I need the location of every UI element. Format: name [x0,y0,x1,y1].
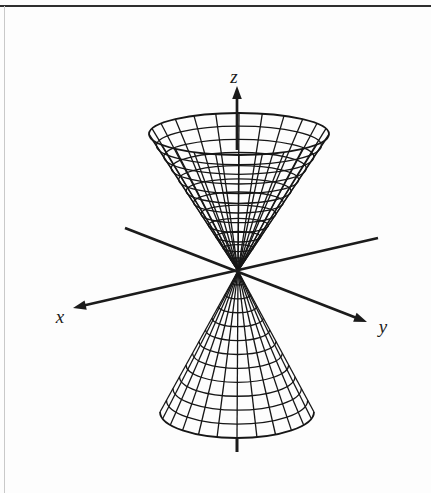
lower-cone-generator [238,271,291,430]
y-axis-arrowhead [353,313,367,322]
upper-cone-generator [152,129,238,271]
double-cone-diagram: z x y [0,0,431,493]
upper-cone-generator [238,119,303,271]
upper-cone-generator [194,152,238,271]
lower-cone-generator [237,271,238,438]
y-axis-label: y [377,316,388,337]
lower-cone-generator [183,271,238,430]
x-axis-label: x [55,306,65,327]
upper-cone-generator [238,129,326,271]
z-axis-label: z [229,66,238,87]
z-axis-arrowhead [232,86,242,99]
axes-layer [73,86,378,452]
upper-cone-generator [175,119,238,271]
upper-cone-generator [161,124,238,272]
cone-mesh-layer [149,113,329,438]
lower-cone-generator [238,271,311,419]
x-axis-arrowhead [73,300,87,309]
labels-layer: z x y [55,66,388,337]
